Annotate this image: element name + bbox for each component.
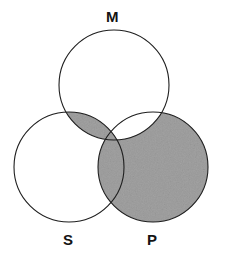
venn-diagram-canvas: M S P: [0, 0, 225, 260]
set-label-p: P: [147, 232, 157, 247]
set-label-s: S: [63, 232, 73, 247]
region-p-shaded: [98, 112, 208, 222]
set-label-m: M: [106, 9, 119, 24]
venn-diagram-svg: [0, 0, 225, 260]
